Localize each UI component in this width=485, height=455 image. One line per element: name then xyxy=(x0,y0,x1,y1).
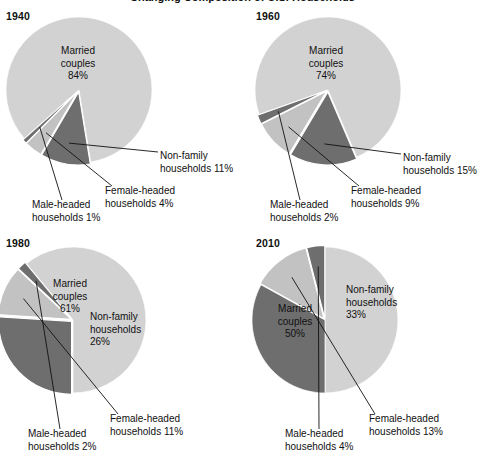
panel-1980: 1980 Married couples 61% Non-family hous… xyxy=(0,228,242,455)
panel-1940: 1940 Married couples 84% Non-family hous… xyxy=(0,0,242,228)
label-married-1980: Married couples 61% xyxy=(24,278,116,316)
label-female-1980: Female-headed households 11% xyxy=(110,413,183,438)
label-female-1940: Female-headed households 4% xyxy=(105,185,175,210)
panel-1960: 1960 Married couples 74% Non-family hous… xyxy=(243,0,485,228)
label-male-1960: Male-headed households 2% xyxy=(270,199,338,224)
label-male-1940: Male-headed households 1% xyxy=(32,199,100,224)
panel-2010: 2010 Married couples 50% Non-family hous… xyxy=(243,228,485,455)
label-nonfamily-2010: Non-family households 33% xyxy=(346,284,397,322)
label-married-1960: Married couples 74% xyxy=(278,45,374,83)
label-male-2010: Male-headed households 4% xyxy=(285,428,353,453)
label-married-2010: Married couples 50% xyxy=(253,303,337,341)
label-male-1980: Male-headed households 2% xyxy=(28,428,96,453)
label-nonfamily-1960: Non-family households 15% xyxy=(403,152,477,177)
label-female-2010: Female-headed households 13% xyxy=(369,413,443,438)
pie-chart-figure: Changing Composition of U.S. Households … xyxy=(0,0,485,455)
pie-slice-non-family-households[interactable] xyxy=(0,317,72,395)
label-married-1940: Married couples 84% xyxy=(30,45,126,83)
label-nonfamily-1940: Non-family households 11% xyxy=(160,150,233,175)
label-female-1960: Female-headed households 9% xyxy=(351,185,421,210)
label-nonfamily-1980: Non-family households 26% xyxy=(90,311,141,349)
